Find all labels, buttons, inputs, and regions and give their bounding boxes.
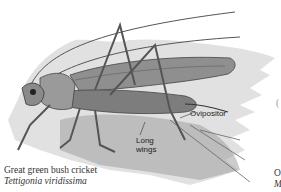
paren-glyph: ( (276, 98, 279, 108)
long-wings-line1: Long (136, 136, 156, 145)
ovipositor-text: Ovipositor (190, 109, 226, 118)
cut-off-caption: O M (274, 168, 281, 190)
species-caption: Great green bush cricket Tettigonia viri… (4, 165, 97, 187)
ovipositor-label: Ovipositor (190, 109, 226, 118)
cricket-illustration (0, 0, 281, 192)
cut-caption-line2: M (274, 179, 281, 190)
long-wings-line2: wings (136, 145, 156, 154)
long-wings-label: Long wings (136, 136, 156, 154)
common-name: Great green bush cricket (4, 165, 97, 176)
latin-name: Tettigonia viridissima (4, 176, 97, 187)
cut-off-paren: ( (276, 98, 279, 109)
cut-caption-line1: O (274, 168, 281, 179)
